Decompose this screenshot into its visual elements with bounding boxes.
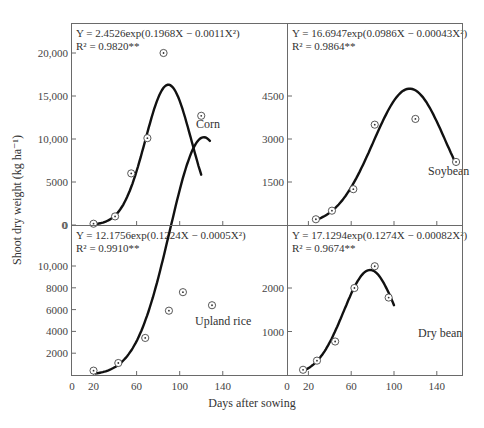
data-point-center [455,161,457,163]
y-tick-label: 0 [62,219,68,231]
data-point-center [352,188,354,190]
y-tick-label: 5000 [46,176,69,188]
crop-label: Dry bean [418,326,462,340]
fit-equation: Y = 17.1294exp(0.1274X − 0.00082X²) [292,229,467,242]
data-point-center [302,369,304,371]
y-tick-label: 20,000 [38,47,69,59]
data-point-center [93,370,95,372]
x-tick-label: 20 [303,380,315,392]
panel-dry-bean: 0206010014010002000Y = 17.1294exp(0.1274… [262,229,467,392]
data-point-center [388,297,390,299]
y-tick-label: 2000 [262,282,285,294]
y-tick-label: 8000 [46,282,69,294]
data-point-center [182,291,184,293]
x-tick-label: 60 [346,380,358,392]
data-point-center [374,265,376,267]
data-point-center [163,52,165,54]
y-tick-label: 2000 [46,347,69,359]
x-axis-label: Days after sowing [208,396,295,410]
data-point-center [117,362,119,364]
x-tick-label: 20 [88,380,100,392]
y-tick-label: 10,000 [38,260,69,272]
data-point-center [315,218,317,220]
data-point-center [130,173,132,175]
x-tick-label: 60 [131,380,143,392]
r-squared: R² = 0.9820** [76,40,140,52]
r-squared: R² = 0.9864** [292,40,356,52]
fit-equation: Y = 16.6947exp(0.0986X − 0.00043X²) [292,27,467,40]
panel-upland-rice: 02060100140200040006000800010,000Y = 12.… [38,137,252,392]
y-tick-label: 10,000 [38,133,69,145]
r-squared: R² = 0.9910** [76,242,140,254]
x-tick-label: 100 [386,380,403,392]
y-tick-label: 1000 [262,326,285,338]
panel-soybean: 150030004500Y = 16.6947exp(0.0986X − 0.0… [262,27,469,225]
fitted-curve [316,89,456,220]
data-point-center [168,310,170,312]
data-point-center [200,115,202,117]
fitted-curve [94,85,202,225]
x-tick-label: 0 [284,380,290,392]
data-point-center [93,223,95,225]
data-point-center [146,137,148,139]
data-point-center [354,287,356,289]
y-tick-label: 4500 [262,90,285,102]
data-point-center [374,124,376,126]
fitted-curve [96,137,210,373]
y-axis-label: Shoot dry weight (kg ha⁻¹) [10,135,24,265]
y-tick-label: 4000 [46,325,69,337]
figure: Shoot dry weight (kg ha⁻¹) Days after so… [0,0,484,428]
x-tick-label: 140 [215,380,232,392]
fit-equation: Y = 12.1756exp(0.1224X − 0.0005X²) [76,229,246,242]
data-point-center [114,216,116,218]
data-point-center [334,341,336,343]
x-tick-label: 0 [69,380,75,392]
y-tick-label: 15,000 [38,90,69,102]
y-tick-label: 3000 [262,133,285,145]
r-squared: R² = 0.9674** [292,242,356,254]
crop-label: Soybean [428,164,469,178]
panel-corn: 0500010,00015,00020,000Y = 2.4526exp(0.1… [38,27,240,231]
x-tick-label: 140 [429,380,446,392]
crop-label: Upland rice [195,314,251,328]
y-tick-label: 1500 [262,176,285,188]
fit-equation: Y = 2.4526exp(0.1968X − 0.0011X²) [76,27,240,40]
data-point-center [316,360,318,362]
data-point-center [331,210,333,212]
y-tick-label: 6000 [46,304,69,316]
data-point-center [415,118,417,120]
x-tick-label: 100 [171,380,188,392]
data-point-center [211,304,213,306]
data-point-center [144,337,146,339]
fitted-curve [303,270,394,371]
